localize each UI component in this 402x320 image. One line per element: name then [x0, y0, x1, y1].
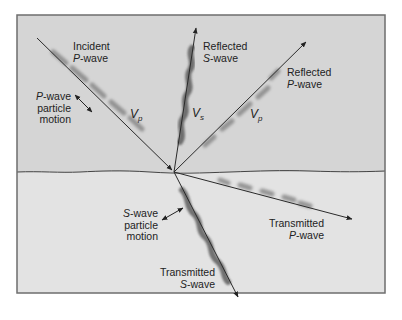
reflected-p-wave-label: Reflected P-wave	[287, 67, 331, 90]
wave-type: S	[180, 278, 187, 290]
upper-medium	[17, 15, 385, 173]
velocity-symbol: V	[192, 106, 200, 120]
label-text: -wave	[210, 52, 238, 64]
wave-type: P	[287, 78, 294, 90]
wave-type: P	[36, 90, 43, 102]
reflected-vp-label: Vp	[250, 107, 262, 123]
s-particle-motion-label: S-wave particle motion	[116, 208, 158, 243]
label-line: motion	[33, 114, 71, 126]
incident-p-wave-label: Incident P-wave	[73, 41, 110, 64]
reflected-s-wave-label: Reflected S-wave	[203, 41, 247, 64]
label-text: -wave	[187, 278, 215, 290]
label-text: -wave	[130, 207, 158, 219]
p-particle-motion-label: P-wave particle motion	[33, 91, 71, 126]
label-line: S-wave	[116, 208, 158, 220]
velocity-symbol: V	[130, 107, 138, 121]
velocity-symbol: V	[250, 107, 258, 121]
incident-vp-label: Vp	[130, 107, 142, 123]
wave-type: P	[289, 229, 296, 241]
label-text: -wave	[294, 78, 322, 90]
label-line: S-wave	[203, 53, 247, 65]
label-text: -wave	[43, 90, 71, 102]
label-line: P-wave	[266, 230, 324, 242]
transmitted-p-wave-label: Transmitted P-wave	[266, 218, 324, 241]
wave-type: S	[203, 52, 210, 64]
label-line: motion	[116, 231, 158, 243]
velocity-subscript: p	[138, 114, 142, 123]
seismic-wave-diagram: Incident P-wave P-wave particle motion R…	[0, 0, 402, 320]
wave-type: S	[123, 207, 130, 219]
label-line: P-wave	[33, 91, 71, 103]
label-text: -wave	[80, 52, 108, 64]
label-line: S-wave	[155, 279, 215, 291]
velocity-subscript: s	[200, 113, 204, 122]
label-line: P-wave	[287, 79, 331, 91]
wave-type: P	[73, 52, 80, 64]
label-line: P-wave	[73, 53, 110, 65]
reflected-vs-label: Vs	[192, 106, 204, 122]
transmitted-s-wave-label: Transmitted S-wave	[155, 267, 215, 290]
label-text: -wave	[296, 229, 324, 241]
velocity-subscript: p	[258, 114, 262, 123]
